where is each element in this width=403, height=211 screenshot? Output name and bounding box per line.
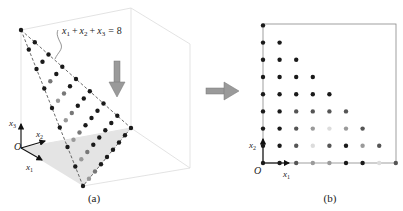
lattice-point xyxy=(95,109,99,113)
lattice-point xyxy=(261,109,265,113)
lattice-point xyxy=(294,144,298,148)
lattice-point xyxy=(87,177,91,181)
x1-axis-label-b: x1 xyxy=(282,169,290,180)
lattice-point xyxy=(109,121,113,125)
lattice-point xyxy=(68,84,72,88)
lattice-point xyxy=(377,161,381,165)
lattice-point xyxy=(88,89,92,93)
lattice-point xyxy=(65,145,69,149)
lattice-point xyxy=(123,133,127,137)
lattice-point xyxy=(311,161,315,165)
lattice-point xyxy=(115,114,119,118)
lattice-point xyxy=(394,161,398,165)
lattice-point xyxy=(48,79,52,83)
lattice-point xyxy=(327,109,331,113)
lattice-point xyxy=(261,58,265,62)
lattice-point xyxy=(34,67,38,71)
right-arrow-icon xyxy=(206,82,239,100)
lattice-point xyxy=(311,92,315,96)
lattice-point xyxy=(27,47,31,51)
lattice-point xyxy=(327,126,331,130)
lattice-point xyxy=(89,116,93,120)
lattice-point xyxy=(277,126,281,130)
lattice-point xyxy=(277,40,281,44)
x3-axis-label: x3 xyxy=(8,118,16,129)
lattice-point xyxy=(327,92,331,96)
lattice-point xyxy=(103,128,107,132)
lattice-point xyxy=(40,60,44,64)
lattice-point xyxy=(294,126,298,130)
lattice-point xyxy=(54,72,58,76)
lattice-point xyxy=(46,52,50,56)
lattice-point xyxy=(129,126,133,130)
x2-axis-label: x2 xyxy=(35,129,43,140)
lattice-point xyxy=(50,106,54,110)
lattice-point xyxy=(93,169,97,173)
lattice-point xyxy=(19,28,23,32)
lattice-point xyxy=(62,91,66,95)
lattice-point xyxy=(277,144,281,148)
lattice-point xyxy=(311,126,315,130)
lattice-point xyxy=(77,130,81,134)
lattice-point xyxy=(33,40,37,44)
lattice-point xyxy=(294,161,298,165)
figure-canvas: O x3 x2 x1 x1+x2+x3=8 (a) O x1 x2 (b) xyxy=(0,0,403,211)
x1-axis-label: x1 xyxy=(25,162,33,173)
simplex-equation: x1+x2+x3=8 xyxy=(61,25,122,38)
lattice-point xyxy=(60,65,64,69)
lattice-point xyxy=(70,111,74,115)
lattice-point xyxy=(360,144,364,148)
lattice-point xyxy=(277,109,281,113)
caption-b: (b) xyxy=(324,192,337,205)
lattice-point xyxy=(79,157,83,161)
lattice-point xyxy=(73,164,77,168)
lattice-point xyxy=(261,75,265,79)
x2-axis-label-b: x2 xyxy=(248,140,256,151)
lattice-point xyxy=(261,23,265,27)
lattice-point xyxy=(58,125,62,129)
caption-a: (a) xyxy=(88,192,101,205)
lattice-point xyxy=(360,126,364,130)
panel-b: O x1 x2 (b) xyxy=(248,23,398,205)
lattice-point xyxy=(117,140,121,144)
lattice-point xyxy=(311,75,315,79)
lattice-point xyxy=(344,126,348,130)
lattice-point xyxy=(377,144,381,148)
lattice-point xyxy=(261,40,265,44)
lattice-point xyxy=(311,144,315,148)
panel-a: O x3 x2 x1 x1+x2+x3=8 (a) xyxy=(8,8,190,205)
lattice-point xyxy=(360,161,364,165)
lattice-point xyxy=(42,86,46,90)
down-arrow-icon xyxy=(109,61,125,97)
equation-leader xyxy=(55,30,61,59)
origin-label-a: O xyxy=(14,141,21,152)
lattice-point xyxy=(327,161,331,165)
lattice-point xyxy=(64,118,68,122)
lattice-point xyxy=(344,109,348,113)
lattice-point xyxy=(76,104,80,108)
lattice-point xyxy=(81,184,85,188)
lattice-point xyxy=(74,77,78,81)
lattice-point xyxy=(327,144,331,148)
lattice-point xyxy=(344,144,348,148)
lattice-point xyxy=(277,161,281,165)
lattice-point xyxy=(261,161,265,165)
lattice-point xyxy=(277,92,281,96)
lattice-point xyxy=(82,96,86,100)
axes-2d xyxy=(263,139,289,163)
lattice-points-2d xyxy=(261,23,398,165)
lattice-point xyxy=(261,126,265,130)
lattice-point xyxy=(311,109,315,113)
lattice-point xyxy=(294,92,298,96)
lattice-point xyxy=(111,148,115,152)
lattice-point xyxy=(277,58,281,62)
origin-label-b: O xyxy=(254,165,261,176)
lattice-point xyxy=(97,135,101,139)
lattice-point xyxy=(261,144,265,148)
lattice-point xyxy=(277,75,281,79)
lattice-point xyxy=(294,58,298,62)
lattice-point xyxy=(91,143,95,147)
lattice-point xyxy=(344,161,348,165)
lattice-point xyxy=(294,75,298,79)
lattice-point xyxy=(101,101,105,105)
